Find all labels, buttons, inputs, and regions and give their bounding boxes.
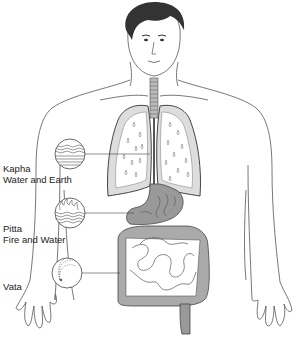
lungs [107,105,200,196]
vata-label: Vata [3,281,22,292]
head [125,2,184,76]
right-hand [252,282,292,326]
left-hand [16,280,57,328]
vata-symbol-icon [52,256,82,288]
pitta-name: Pitta [3,223,65,234]
pitta-label: Pitta Fire and Water [3,223,65,245]
vata-name: Vata [3,281,22,292]
colon [118,226,209,334]
kapha-elements: Water and Earth [3,174,72,185]
dosha-body-diagram: Kapha Water and Earth Pitta Fire and Wat… [0,0,303,344]
pitta-elements: Fire and Water [3,234,65,245]
kapha-label: Kapha Water and Earth [3,163,72,185]
kapha-name: Kapha [3,163,72,174]
trachea [150,78,158,118]
